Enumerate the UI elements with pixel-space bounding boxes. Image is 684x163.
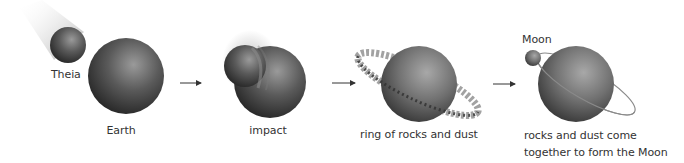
stage-moon xyxy=(525,43,642,125)
stage-impact xyxy=(222,30,306,118)
earth-final-sphere xyxy=(538,46,614,122)
earth-sphere xyxy=(88,38,164,114)
stage-ring xyxy=(351,42,484,127)
moon-label: Moon xyxy=(522,33,552,46)
impact-label: impact xyxy=(249,124,286,137)
earth-label: Earth xyxy=(107,124,136,137)
moon-formation-diagram: Theia Earth impact ring of rocks and dus… xyxy=(0,0,684,163)
moon-sphere xyxy=(525,50,541,66)
theia-label: Theia xyxy=(51,68,81,81)
moon-formation-caption: rocks and dust come together to form the… xyxy=(524,127,668,161)
theia-sphere xyxy=(50,27,86,63)
stage-earth-theia xyxy=(20,0,164,114)
ring-label: ring of rocks and dust xyxy=(360,128,478,141)
